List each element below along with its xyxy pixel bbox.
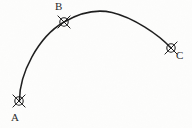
circle-x-marker	[13, 95, 25, 107]
diagram-canvas	[0, 0, 192, 128]
trajectory-arc	[19, 11, 171, 101]
point-label-c: C	[176, 50, 183, 61]
point-label-a: A	[11, 112, 19, 123]
circle-x-marker	[58, 16, 70, 28]
point-label-b: B	[55, 1, 62, 12]
point-markers	[13, 16, 177, 107]
arc-diagram: A B C	[0, 0, 192, 128]
